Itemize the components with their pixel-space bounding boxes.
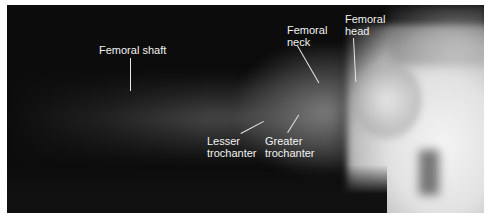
label-femoral-head: Femoral head: [345, 13, 385, 37]
leader-femoral-shaft: [130, 58, 131, 91]
label-femoral-shaft: Femoral shaft: [99, 44, 166, 56]
label-greater-trochanter-line2: trochanter: [265, 147, 315, 159]
label-femoral-head-line2: head: [345, 25, 369, 37]
label-greater-trochanter-line1: Greater: [265, 135, 302, 147]
label-lesser-trochanter: Lesser trochanter: [207, 135, 257, 159]
pelvis-top-shadow: [387, 5, 484, 65]
xray-image: [7, 5, 484, 213]
label-greater-trochanter: Greater trochanter: [265, 135, 315, 159]
label-femoral-head-line1: Femoral: [345, 13, 385, 25]
label-lesser-trochanter-line2: trochanter: [207, 147, 257, 159]
obturator-shadow: [419, 150, 439, 195]
shaft-fade: [7, 65, 207, 175]
label-femoral-neck: Femoral neck: [287, 24, 327, 48]
label-lesser-trochanter-line1: Lesser: [207, 135, 240, 147]
label-femoral-neck-line1: Femoral: [287, 24, 327, 36]
soft-tissue-shadow: [7, 165, 387, 213]
femoral-head-shadow: [352, 60, 422, 140]
